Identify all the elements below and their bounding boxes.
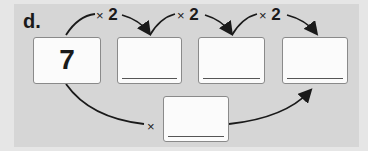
start-value: 7: [34, 44, 100, 76]
answer-box-3[interactable]: [282, 37, 348, 84]
step-2-operator: × 2: [177, 5, 199, 25]
answer-line: [203, 78, 260, 80]
answer-line: [287, 78, 343, 80]
answer-line: [122, 78, 177, 80]
answer-line: [168, 136, 224, 138]
combined-operator: ×: [147, 116, 155, 136]
combined-multiplier-box[interactable]: [163, 96, 229, 142]
answer-box-2[interactable]: [198, 37, 265, 84]
start-box: 7: [33, 37, 101, 84]
step-3-operator: × 2: [259, 5, 281, 25]
step-1-operator: × 2: [96, 5, 118, 25]
answer-box-1[interactable]: [117, 37, 182, 84]
